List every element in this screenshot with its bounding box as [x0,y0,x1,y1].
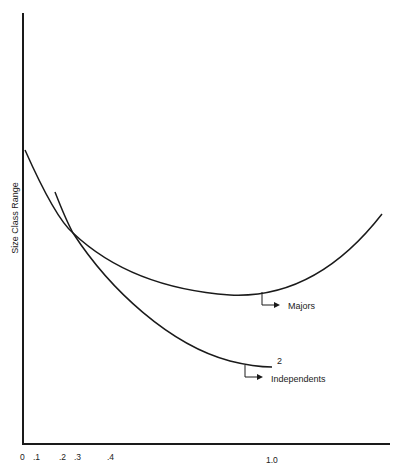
independents-label: Independents [271,374,326,384]
x-tick-label: .1 [33,452,40,462]
independents-marker: 2 [277,356,282,366]
independents-curve [55,192,272,367]
majors-label: Majors [288,301,316,311]
independents-arrow-icon [245,365,263,380]
x-tick-label: .2 [59,452,66,462]
x-tick-label: .4 [107,452,114,462]
x-tick-label: 1.0 [266,455,278,465]
y-axis-title: Size Class Range [10,182,20,254]
x-tick-label: 0 [20,452,25,462]
majors-arrow-icon [262,292,280,308]
chart: Size Class Range 0 .1 .2 .3 .4 1.0 Major… [0,0,399,471]
majors-curve [25,150,382,295]
x-tick-label: .3 [74,452,81,462]
